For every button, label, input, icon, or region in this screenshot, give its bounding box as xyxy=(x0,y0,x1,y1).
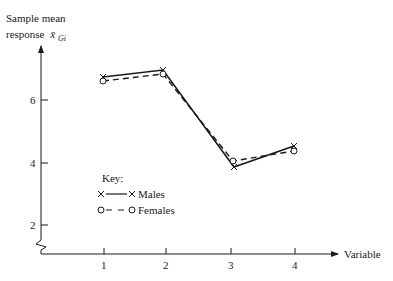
legend-female-marker-left xyxy=(98,207,104,213)
legend-females-label: Females xyxy=(138,204,175,216)
series-males xyxy=(100,67,297,170)
x-tick-label-1: 1 xyxy=(101,259,107,271)
female-marker-4 xyxy=(291,148,297,154)
legend-male-marker-right xyxy=(129,191,135,197)
y-tick-label-6: 6 xyxy=(30,94,36,106)
y-axis-label-line2: response x̄ Gi xyxy=(6,28,66,43)
legend-female-marker-right xyxy=(129,207,135,213)
female-marker-2 xyxy=(160,71,166,77)
chart-canvas: Sample mean response x̄ Gi 6 4 2 1 2 3 4… xyxy=(0,0,393,281)
legend-title: Key: xyxy=(102,172,123,184)
x-ticks xyxy=(104,248,295,254)
x-tick-label-2: 2 xyxy=(163,259,169,271)
y-axis xyxy=(36,46,46,254)
y-axis-label-line1: Sample mean xyxy=(6,12,66,24)
legend-males-label: Males xyxy=(138,188,165,200)
legend-male-marker-left xyxy=(98,191,104,197)
y-tick-label-2: 2 xyxy=(30,219,36,231)
y-tick-label-4: 4 xyxy=(30,157,36,169)
x-tick-label-4: 4 xyxy=(292,259,298,271)
x-axis-label: Variable xyxy=(344,248,381,260)
female-marker-1 xyxy=(100,78,106,84)
female-marker-3 xyxy=(230,158,236,164)
y-ticks xyxy=(41,100,48,225)
legend: Key: Males Females xyxy=(98,172,175,216)
x-tick-label-3: 3 xyxy=(228,259,234,271)
